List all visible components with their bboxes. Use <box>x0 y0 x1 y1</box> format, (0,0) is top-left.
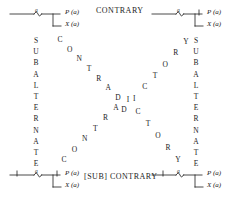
corner-circuit-top-right <box>150 6 236 36</box>
subalternate-right-letter: S <box>190 35 202 46</box>
corner-diagram-bottom-left: a P (a) X (a) <box>8 167 94 197</box>
contradictory-upper-right-letter: T <box>153 72 158 80</box>
label-subalternate-left: SUBALTERNATE <box>30 35 42 169</box>
subalternate-right-letter: T <box>190 91 202 102</box>
subalternate-right-letter: U <box>190 46 202 57</box>
contradictory-lower-left-letter: O <box>72 146 77 154</box>
contradictory-upper-right-letter: O <box>163 61 168 69</box>
subalternate-right-letter: A <box>190 69 202 80</box>
contradictory-upper-left-letter: T <box>87 65 92 73</box>
corner-variable-bottom-left: X (a) <box>65 181 79 189</box>
subalternate-left-letter: R <box>30 113 42 124</box>
contradictory-lower-left-letter: R <box>103 114 108 122</box>
subalternate-right-letter: A <box>190 136 202 147</box>
contradictory-upper-right-letter: D <box>121 106 126 114</box>
subalternate-left-letter: B <box>30 57 42 68</box>
corner-diagram-top-left: a P (a) X (a) <box>8 6 94 36</box>
corner-variable-top-left: X (a) <box>65 20 79 28</box>
subalternate-left-letter: L <box>30 80 42 91</box>
subalternate-left-letter: E <box>30 102 42 113</box>
contradictory-lower-right-letter: T <box>146 120 151 128</box>
contradictory-upper-left-letter: O <box>67 46 72 54</box>
contradictory-lower-right-letter: R <box>165 144 170 152</box>
subalternate-left-letter: T <box>30 147 42 158</box>
subalternate-left-letter: U <box>30 46 42 57</box>
caption-subcontrary: [SUB] CONTRARY <box>84 172 157 181</box>
contradictory-upper-left-letter: N <box>77 55 82 63</box>
corner-arg-label-top-left: a <box>35 7 38 13</box>
corner-diagram-top-right: a P (a) X (a) <box>150 6 236 36</box>
subalternate-left-letter: A <box>30 136 42 147</box>
contradictory-lower-left-letter: N <box>82 135 87 143</box>
label-subalternate-right: SUBALTERNATE <box>190 35 202 169</box>
subalternate-left-letter: N <box>30 125 42 136</box>
contradictory-upper-left-letter: D <box>115 94 120 102</box>
subalternate-left-letter: A <box>30 69 42 80</box>
subalternate-right-letter: L <box>190 80 202 91</box>
contradictory-upper-right-letter: Y <box>183 38 188 46</box>
corner-predicate-bottom-left: P (a) <box>65 169 79 177</box>
contradictory-upper-right-letter: I <box>133 95 136 103</box>
contradictory-lower-left-letter: T <box>93 125 98 133</box>
contradictory-lower-right-letter: O <box>155 132 160 140</box>
contradictory-upper-left-letter: A <box>106 84 111 92</box>
subalternate-right-letter: B <box>190 57 202 68</box>
contradictory-lower-right-letter: I <box>127 96 130 104</box>
contradictory-upper-right-letter: C <box>142 83 147 91</box>
subalternate-left-letter: E <box>30 158 42 169</box>
corner-predicate-top-right: P (a) <box>207 8 221 16</box>
contradictory-upper-left-letter: C <box>57 36 62 44</box>
corner-variable-top-right: X (a) <box>207 20 221 28</box>
contradictory-lower-left-letter: A <box>113 104 118 112</box>
corner-circuit-bottom-right <box>150 167 236 197</box>
corner-variable-bottom-right: X (a) <box>207 181 221 189</box>
subalternate-left-letter: T <box>30 91 42 102</box>
contradictory-lower-left-letter: C <box>61 156 66 164</box>
corner-diagram-bottom-right: a P (a) X (a) <box>150 167 236 197</box>
subalternate-left-letter: S <box>30 35 42 46</box>
contradictory-lower-right-letter: Y <box>175 156 180 164</box>
corner-predicate-bottom-right: P (a) <box>207 169 221 177</box>
subalternate-right-letter: E <box>190 158 202 169</box>
corner-predicate-top-left: P (a) <box>65 8 79 16</box>
contradictory-upper-right-letter: R <box>173 49 178 57</box>
contradictory-upper-left-letter: R <box>96 75 101 83</box>
corner-arg-label-top-right: a <box>177 7 180 13</box>
corner-circuit-bottom-left <box>8 167 94 197</box>
square-of-opposition-figure: a P (a) X (a) a P (a) X (a) <box>0 0 244 199</box>
subalternate-right-letter: T <box>190 147 202 158</box>
subalternate-right-letter: E <box>190 102 202 113</box>
subalternate-right-letter: R <box>190 113 202 124</box>
caption-contrary: CONTRARY <box>96 6 144 15</box>
corner-circuit-top-left <box>8 6 94 36</box>
contradictory-lower-right-letter: C <box>135 108 140 116</box>
corner-arg-label-bottom-right: a <box>177 168 180 174</box>
subalternate-right-letter: N <box>190 125 202 136</box>
